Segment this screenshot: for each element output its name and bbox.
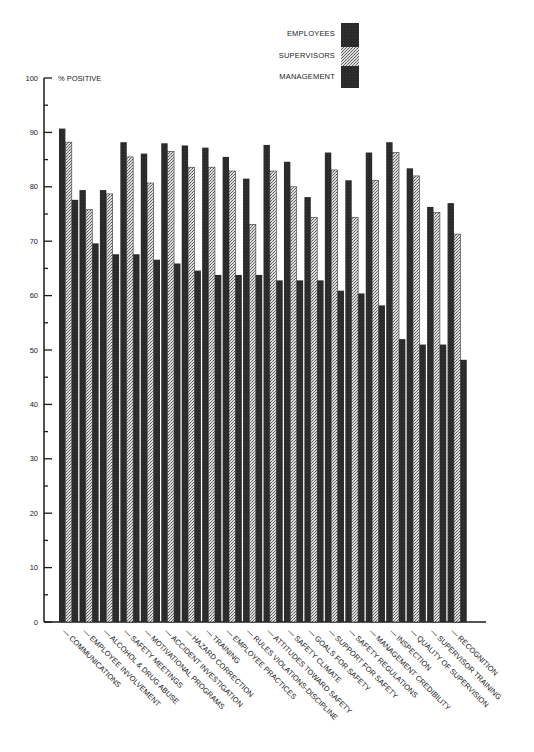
x-axis-labels: — COMMUNICATIONS— EMPLOYEE INVOLVEMENT— … xyxy=(61,627,504,722)
bar-management xyxy=(317,280,323,622)
bar-employees xyxy=(182,145,188,622)
bar-supervisors xyxy=(229,171,235,622)
bar-group xyxy=(366,153,385,622)
bar-supervisors xyxy=(147,183,153,622)
bar-supervisors xyxy=(106,194,112,622)
bar-management xyxy=(256,275,262,622)
bar-management xyxy=(215,275,221,622)
legend-swatch-management xyxy=(341,66,359,88)
bar-group xyxy=(448,203,467,622)
bar-supervisors xyxy=(270,171,276,622)
y-tick-label: 40 xyxy=(30,400,38,409)
legend-label-employees: EMPLOYEES xyxy=(287,29,335,38)
bar-employees xyxy=(407,168,413,622)
bar-supervisors xyxy=(393,153,399,622)
bar-employees xyxy=(161,143,167,622)
bar-management xyxy=(92,243,98,622)
bar-management xyxy=(419,345,425,622)
bar-group xyxy=(243,179,262,622)
bar-management xyxy=(195,271,201,622)
bar-employees xyxy=(325,153,331,622)
legend-swatch-employees xyxy=(341,23,359,47)
bar-group xyxy=(427,207,446,622)
bar-group xyxy=(325,153,344,622)
y-tick-label: 20 xyxy=(30,509,38,518)
bar-management xyxy=(297,280,303,622)
bar-management xyxy=(276,280,282,622)
bar-supervisors xyxy=(413,176,419,622)
bar-management xyxy=(399,339,405,622)
bar-group xyxy=(407,168,426,622)
bar-group xyxy=(161,143,180,622)
bar-employees xyxy=(448,203,454,622)
bar-supervisors xyxy=(127,157,133,622)
legend-label-management: MANAGEMENT xyxy=(279,72,335,81)
bar-group xyxy=(59,129,78,622)
bar-management xyxy=(440,345,446,622)
bar-management xyxy=(358,293,364,622)
bar-group xyxy=(79,190,98,622)
bar-employees xyxy=(202,148,208,622)
legend-swatch-supervisors xyxy=(341,47,359,66)
bar-employees xyxy=(304,197,310,622)
bar-group xyxy=(345,180,364,622)
bar-employees xyxy=(59,129,65,622)
bars xyxy=(59,129,467,622)
bar-employees xyxy=(223,157,229,622)
bar-group xyxy=(182,145,201,622)
y-tick-label: 100 xyxy=(25,74,38,83)
legend: EMPLOYEES SUPERVISORS MANAGEMENT xyxy=(279,23,359,88)
bar-employees xyxy=(427,207,433,622)
bar-management xyxy=(379,305,385,622)
bar-employees xyxy=(345,180,351,622)
bar-supervisors xyxy=(372,180,378,622)
bar-employees xyxy=(141,154,147,622)
bar-supervisors xyxy=(331,170,337,622)
bar-management xyxy=(154,260,160,622)
bar-supervisors xyxy=(168,151,174,622)
y-tick-label: 60 xyxy=(30,291,38,300)
bar-employees xyxy=(264,145,270,622)
bar-management xyxy=(174,264,180,622)
bar-employees xyxy=(79,190,85,622)
bar-supervisors xyxy=(352,217,358,622)
bar-management xyxy=(72,200,78,622)
bar-supervisors xyxy=(311,217,317,622)
y-axis-title: % POSITIVE xyxy=(58,74,101,83)
bar-group xyxy=(304,197,323,622)
bar-supervisors xyxy=(209,167,215,622)
bar-employees xyxy=(243,179,249,622)
bar-supervisors xyxy=(65,142,71,622)
bar-group xyxy=(141,154,160,622)
y-tick-label: 70 xyxy=(30,237,38,246)
legend-label-supervisors: SUPERVISORS xyxy=(279,51,335,60)
bar-supervisors xyxy=(86,210,92,622)
bar-chart: EMPLOYEES SUPERVISORS MANAGEMENT % POSIT… xyxy=(0,0,534,752)
y-tick-label: 50 xyxy=(30,346,38,355)
bar-employees xyxy=(284,162,290,622)
bar-employees xyxy=(386,142,392,622)
bar-supervisors xyxy=(188,167,194,622)
bar-management xyxy=(133,254,139,622)
bar-group xyxy=(264,145,283,622)
bar-employees xyxy=(120,142,126,622)
bar-group xyxy=(284,162,303,622)
x-category-label: — QUALITY OF SUPERVISION xyxy=(408,627,490,709)
bar-group xyxy=(223,157,242,622)
bar-employees xyxy=(100,190,106,622)
bar-group xyxy=(120,142,139,622)
bar-supervisors xyxy=(454,234,460,622)
bar-group xyxy=(386,142,405,622)
bar-management xyxy=(338,291,344,622)
bar-group xyxy=(100,190,119,622)
y-tick-label: 80 xyxy=(30,182,38,191)
bar-supervisors xyxy=(434,212,440,622)
bar-employees xyxy=(366,153,372,622)
y-tick-label: 0 xyxy=(34,618,38,627)
bar-supervisors xyxy=(290,187,296,622)
bar-group xyxy=(202,148,221,622)
bar-supervisors xyxy=(249,224,255,622)
bar-management xyxy=(113,254,119,622)
bar-management xyxy=(460,360,466,622)
y-tick-label: 90 xyxy=(30,128,38,137)
